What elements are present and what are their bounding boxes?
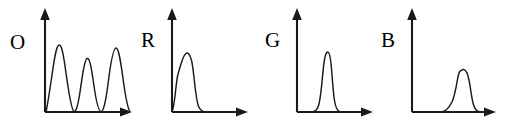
y-axis-arrow-g — [292, 8, 302, 20]
panel-b: B — [375, 0, 509, 128]
y-axis-arrow-b — [407, 8, 417, 20]
curve-b — [413, 69, 486, 112]
curve-r — [172, 53, 238, 112]
x-axis-arrow-o — [120, 107, 132, 116]
panel-r: R — [134, 0, 250, 128]
panel-g: G — [250, 0, 375, 128]
panel-label-r: R — [141, 30, 155, 51]
plot-b — [375, 0, 509, 128]
panel-label-b: B — [381, 30, 395, 51]
curve-g — [298, 52, 363, 112]
y-axis-arrow-o — [40, 8, 50, 20]
panel-o: O — [0, 0, 134, 128]
plot-g — [250, 0, 375, 128]
curve-o — [46, 45, 130, 112]
y-axis-arrow-r — [167, 8, 177, 20]
plot-o — [0, 0, 134, 128]
figure-container: O R G B — [0, 0, 509, 128]
plot-r — [134, 0, 250, 128]
panel-label-o: O — [10, 32, 25, 53]
panel-label-g: G — [265, 30, 280, 51]
